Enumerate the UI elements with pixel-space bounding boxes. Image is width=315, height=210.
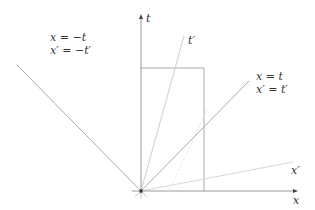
- x-axis-arrow-icon: [293, 189, 298, 193]
- t-prime-axis: [141, 36, 184, 191]
- x-prime-axis-label: x′: [291, 164, 300, 177]
- light-line-right: [141, 81, 249, 191]
- light-cone-left-eq1: x = −t: [50, 31, 87, 44]
- spacetime-diagram: t t′ x′ x x = −t x′ = −t′ x = t x′ = t′: [0, 0, 315, 210]
- rectangle: [141, 68, 204, 191]
- t-axis-arrow-icon: [139, 14, 143, 19]
- light-cone-right-eq2: x′ = t′: [256, 83, 288, 96]
- x-prime-axis: [141, 162, 293, 191]
- light-cone-left-eq2: x′ = −t′: [50, 44, 92, 57]
- t-axis-label: t: [146, 12, 151, 25]
- t-prime-axis-label: t′: [188, 34, 195, 47]
- faint-worldline: [170, 108, 208, 189]
- light-line-left: [17, 65, 141, 191]
- light-cone-right-eq1: x = t: [256, 70, 283, 83]
- x-axis-label: x: [293, 194, 300, 207]
